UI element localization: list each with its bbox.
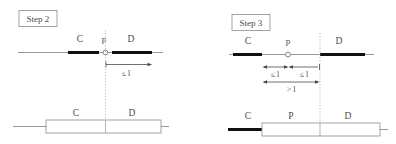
step2-label-box: Step 2 <box>19 11 57 27</box>
step3-bottom-label-d: D <box>345 111 352 121</box>
step2-top-label-c: C <box>77 34 83 44</box>
step3-bottom-label-c: C <box>245 111 251 121</box>
step3-top-label-d: D <box>336 36 343 46</box>
step2-dim1-label: ≤ l <box>122 69 131 78</box>
step3-bottom-label-p: P <box>288 111 293 121</box>
step3-dimension-2: ≤ l <box>289 64 320 79</box>
step2-dimension-1: ≤ l <box>106 62 152 79</box>
step3-dim1-arrowhead-right <box>284 65 289 69</box>
step3-dim3-arrowhead-right <box>315 80 320 84</box>
step3-bottom-box <box>262 123 380 136</box>
step3-dim1-label: ≤ l <box>271 70 280 79</box>
step3-bottom-track: C P D <box>228 111 388 136</box>
step3-dim2-label: ≤ l <box>300 70 309 79</box>
step3-top-label-c: C <box>245 36 251 46</box>
step2-bottom-box <box>46 120 161 133</box>
figure-canvas: Step 2 C p D ≤ l C D <box>0 0 396 144</box>
step3-top-label-p: p <box>286 36 291 46</box>
step2-label-text: Step 2 <box>27 14 50 24</box>
step2-bottom-track: C D <box>13 108 169 133</box>
panel-step3: Step 3 C p D ≤ l ≤ l <box>228 15 388 137</box>
step3-dimension-1: ≤ l <box>263 65 289 79</box>
step3-dimension-3: > l <box>263 80 320 94</box>
diagram-svg: Step 2 C p D ≤ l C D <box>0 0 396 144</box>
step3-label-box: Step 3 <box>232 15 270 31</box>
step2-bottom-label-d: D <box>129 108 136 118</box>
step2-top-label-d: D <box>128 34 135 44</box>
step3-dim3-label: > l <box>287 85 297 94</box>
step3-dim1-arrowhead-left <box>263 65 268 69</box>
step3-dim3-arrowhead-left <box>263 80 268 84</box>
step2-bottom-label-c: C <box>73 108 79 118</box>
step3-label-text: Step 3 <box>240 18 263 28</box>
step2-dim1-arrowhead-right <box>148 63 153 67</box>
step3-point-p-marker <box>286 52 291 57</box>
step2-top-label-p: p <box>102 34 107 44</box>
step3-dim2-arrowhead-left <box>289 65 294 69</box>
panel-step2: Step 2 C p D ≤ l C D <box>13 11 169 134</box>
